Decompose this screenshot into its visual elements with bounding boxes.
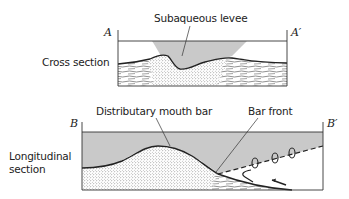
subaqueous-levee-label: Subaqueous levee [154,12,247,24]
cross-section-diagram [118,26,287,86]
cross-section-right-marker: A′ [291,27,301,39]
longitudinal-title-line1: Longitudinal [9,150,71,162]
longitudinal-left-marker: B [70,118,78,130]
cross-section-left-marker: A [104,27,112,39]
cross-section-title: Cross section [42,56,109,68]
distributary-mouth-bar-label: Distributary mouth bar [96,105,212,117]
longitudinal-right-marker: B′ [327,118,337,130]
return-flow-arrow-upper [243,170,253,182]
bar-front-label: Bar front [248,105,292,117]
longitudinal-section-diagram [82,118,323,190]
delta-diagram: A A′ Cross section Subaqueous levee B B′… [0,0,349,199]
longitudinal-title-line2: section [9,163,45,175]
